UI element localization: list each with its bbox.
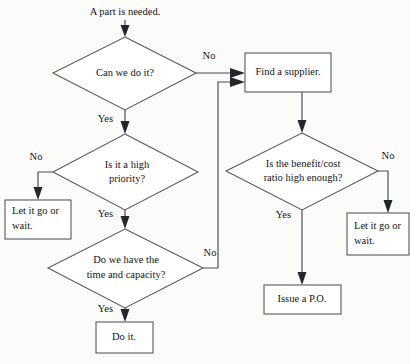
start-label: A part is needed. — [90, 6, 161, 17]
decision-is-it-a-high-priority-label-line1: Is it a high — [105, 159, 150, 170]
arrowhead-capacity-yes-icon — [121, 309, 130, 322]
connector-benefit-no — [378, 171, 388, 205]
process-let-it-go-or-wait-left-line1: Let it go or — [12, 205, 59, 216]
decision-benefit-label-line1: Is the benefit/cost — [266, 158, 341, 169]
process-issue-a-po-label: Issue a P.O. — [278, 293, 327, 304]
edge-label-capacity-yes: Yes — [98, 303, 113, 314]
edge-label-priority-yes: Yes — [98, 208, 113, 219]
arrowhead-benefit-no-icon — [384, 200, 393, 213]
process-let-it-go-or-wait-left-line2: wait. — [12, 220, 33, 231]
edge-label-benefit-no: No — [382, 150, 395, 161]
edge-label-capacity-no: No — [204, 247, 217, 258]
edge-label-can-we-do-it-yes: Yes — [98, 113, 113, 124]
edge-label-priority-no: No — [30, 151, 43, 162]
process-let-it-go-or-wait-right-line1: Let it go or — [354, 220, 401, 231]
decision-can-we-do-it-label: Can we do it? — [96, 67, 154, 78]
arrowhead-priority-no-icon — [34, 187, 43, 200]
decision-capacity-label-line1: Do we have the — [93, 254, 159, 265]
process-do-it-label: Do it. — [112, 331, 136, 342]
decision-is-it-a-high-priority-label-line2: priority? — [109, 173, 145, 184]
arrowhead-priority-yes-icon — [121, 216, 130, 229]
decision-benefit-label-line2: ratio high enough? — [264, 172, 343, 183]
process-find-a-supplier-label: Find a supplier. — [255, 66, 320, 77]
flowchart-svg: A part is needed. Can we do it? No Yes F… — [0, 0, 410, 364]
arrowhead-can-we-do-it-no-icon — [230, 68, 245, 78]
arrowhead-capacity-no-icon — [230, 77, 245, 87]
flowchart-canvas: A part is needed. Can we do it? No Yes F… — [0, 0, 410, 364]
edge-label-can-we-do-it-no: No — [203, 50, 216, 61]
process-let-it-go-or-wait-right-line2: wait. — [354, 235, 375, 246]
arrowhead-start-icon — [121, 25, 130, 37]
arrowhead-find-a-supplier-icon — [298, 120, 307, 133]
arrowhead-can-we-do-it-yes-icon — [121, 121, 130, 134]
edge-label-benefit-yes: Yes — [276, 209, 291, 220]
decision-is-it-a-high-priority[interactable] — [53, 134, 198, 210]
connector-capacity-no — [203, 82, 233, 268]
process-let-it-go-or-wait-right[interactable] — [347, 213, 409, 255]
arrowhead-benefit-yes-icon — [298, 272, 307, 285]
decision-capacity-label-line2: time and capacity? — [87, 269, 166, 280]
